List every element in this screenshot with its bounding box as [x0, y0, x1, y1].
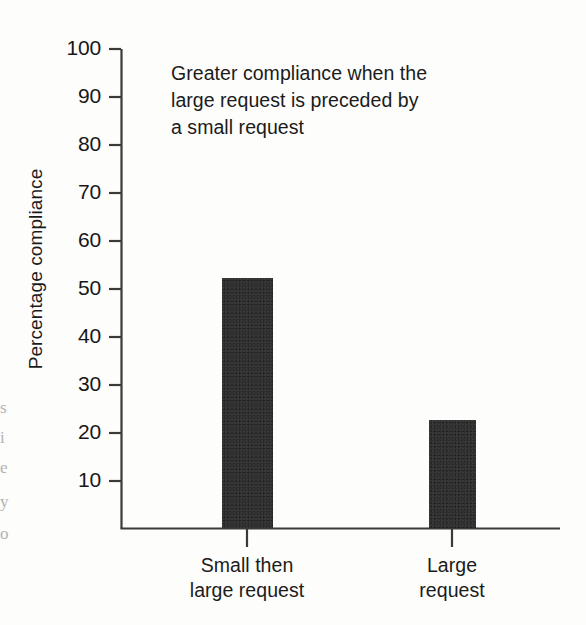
bar-chart-figure: s i e y o Percentage compliance 100 90 8…: [0, 0, 586, 625]
chart-annotation: Greater compliance when the large reques…: [171, 60, 427, 141]
x-category-label-1: Large request: [382, 553, 522, 603]
bar-small-then-large-request: [222, 278, 273, 528]
x-category-label-0: Small then large request: [157, 553, 337, 603]
bar-large-request: [429, 420, 476, 528]
